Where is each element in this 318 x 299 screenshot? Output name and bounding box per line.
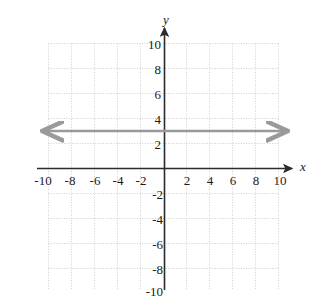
x-tick-label-10: 10: [274, 174, 287, 187]
y-tick-label-4: 4: [155, 113, 162, 126]
y-axis-label: y: [163, 13, 169, 26]
x-tick-label-8: 8: [253, 174, 260, 187]
y-tick-label-neg4: -4: [152, 213, 163, 226]
x-tick-label-4: 4: [207, 174, 214, 187]
grid-horizontal-lines: [49, 44, 279, 291]
x-tick-label-neg2: -2: [136, 174, 147, 187]
x-tick-label-6: 6: [230, 174, 237, 187]
x-tick-label-neg6: -6: [90, 174, 101, 187]
y-tick-label-neg2: -2: [152, 188, 163, 201]
y-tick-label-neg6: -6: [152, 238, 163, 251]
y-tick-label-8: 8: [155, 63, 162, 76]
x-axis-label: x: [300, 160, 306, 173]
y-tick-label-neg8: -8: [152, 263, 163, 276]
x-tick-label-neg8: -8: [65, 174, 76, 187]
grid-vertical-lines: [49, 44, 279, 291]
y-tick-label-6: 6: [155, 88, 162, 101]
y-tick-label-2: 2: [155, 138, 162, 151]
x-tick-label-neg10: -10: [34, 174, 51, 187]
x-tick-label-2: 2: [184, 174, 191, 187]
x-tick-label-neg4: -4: [113, 174, 124, 187]
y-tick-label-10: 10: [148, 38, 161, 51]
y-tick-label-neg10: -10: [146, 285, 163, 298]
